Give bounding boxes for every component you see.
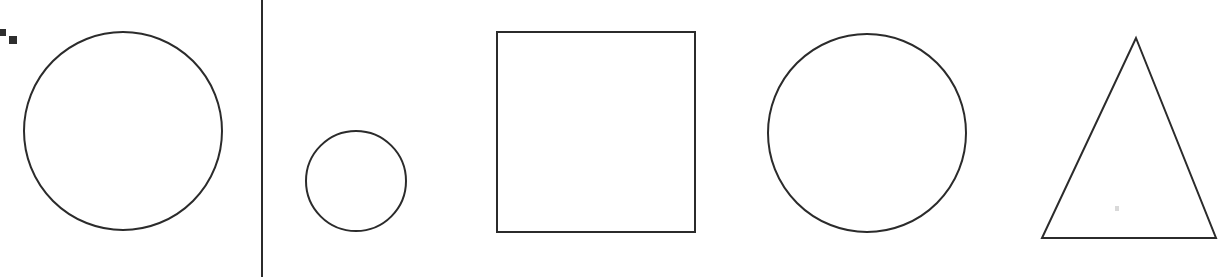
speck-artifact: [1115, 206, 1119, 211]
marker-square-icon: [9, 36, 17, 44]
shape-triangle[interactable]: [1042, 38, 1216, 238]
shapes-canvas: [0, 0, 1222, 277]
shape-circle-large-left[interactable]: [24, 32, 222, 230]
shape-circle-small[interactable]: [306, 131, 406, 231]
shape-square[interactable]: [497, 32, 695, 232]
shapes-drawing: [0, 0, 1222, 277]
marker-square-icon: [0, 29, 6, 36]
shape-circle-large-right[interactable]: [768, 34, 966, 232]
